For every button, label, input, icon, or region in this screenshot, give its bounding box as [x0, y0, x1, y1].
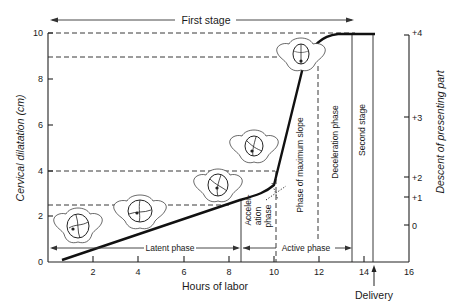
- active-phase-label: Active phase: [282, 243, 331, 253]
- svg-text:6: 6: [38, 120, 43, 130]
- first-stage-arrow: First stage: [50, 14, 354, 26]
- svg-text:4: 4: [38, 166, 43, 176]
- max-slope-label: Phase of maximum slope: [295, 117, 305, 213]
- active-phase-arrow: Active phase: [243, 243, 352, 253]
- cervix-illustration-3: [194, 169, 243, 202]
- cervix-illustration-1: [54, 208, 103, 243]
- svg-text:Acceler-: Acceler-: [243, 194, 253, 225]
- acceleration-phase-label: Acceler- ation phase: [243, 194, 273, 227]
- svg-text:+2: +2: [412, 173, 422, 183]
- cervix-illustration-2: [114, 195, 167, 229]
- svg-text:0: 0: [38, 257, 43, 267]
- deceleration-phase-label: Deceleration phase: [330, 105, 340, 179]
- y-axis-right: [404, 35, 409, 225]
- svg-text:12: 12: [314, 267, 324, 277]
- cervix-illustration-4: [230, 130, 279, 163]
- second-stage-label: Second stage: [357, 104, 367, 156]
- svg-text:+3: +3: [412, 113, 422, 123]
- first-stage-label: First stage: [181, 14, 230, 26]
- x-axis-labels: 2 4 6 8 10 12 14 16: [90, 267, 414, 277]
- y-axis-right-labels: +4 +3 +2 +1 0: [412, 28, 422, 231]
- svg-text:2: 2: [38, 211, 43, 221]
- y-axis-left: [48, 33, 53, 262]
- svg-text:2: 2: [90, 267, 95, 277]
- svg-text:10: 10: [269, 267, 279, 277]
- labor-curve-diagram: First stage 0 2 4 6 8 10 Cervical dilata…: [0, 0, 459, 306]
- svg-text:+4: +4: [412, 28, 422, 38]
- svg-text:0: 0: [412, 221, 417, 231]
- svg-text:14: 14: [359, 267, 369, 277]
- svg-text:ation: ation: [253, 207, 263, 226]
- svg-text:+1: +1: [412, 193, 422, 203]
- latent-phase-arrow: Latent phase: [50, 243, 240, 253]
- svg-text:6: 6: [181, 267, 186, 277]
- y-axis-title: Cervical dilatation (cm): [14, 95, 26, 202]
- svg-text:16: 16: [404, 267, 414, 277]
- svg-text:8: 8: [38, 74, 43, 84]
- x-axis: [48, 217, 409, 262]
- latent-phase-label: Latent phase: [145, 243, 194, 253]
- svg-text:phase: phase: [263, 204, 273, 227]
- y-axis-left-labels: 0 2 4 6 8 10: [33, 28, 43, 267]
- y2-axis-title: Descent of presenting part: [434, 69, 446, 193]
- svg-text:4: 4: [135, 267, 140, 277]
- svg-text:10: 10: [33, 28, 43, 38]
- delivery-label: Delivery: [355, 289, 394, 301]
- dilatation-curve: [62, 34, 375, 260]
- x-axis-title: Hours of labor: [182, 280, 248, 292]
- svg-text:8: 8: [226, 267, 231, 277]
